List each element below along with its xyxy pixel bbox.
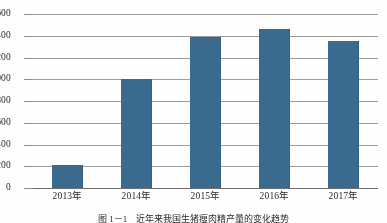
bar-group xyxy=(33,14,378,188)
y-axis-tick-label: 400 xyxy=(0,140,11,150)
y-axis-tick-label: 1000 xyxy=(0,75,11,85)
y-axis-tick-label: 800 xyxy=(0,96,11,106)
figure-caption: 图 1－1 近年来我国生猪瘦肉精产量的变化趋势 xyxy=(0,214,387,223)
y-axis-tick-label: 1600 xyxy=(0,9,11,19)
x-axis-baseline xyxy=(33,188,378,189)
y-axis-tick-label: 600 xyxy=(0,118,11,128)
y-axis-tick: 1600 xyxy=(24,14,33,15)
y-axis-tick: 0 xyxy=(24,188,33,189)
y-axis-tick-label: 0 xyxy=(6,183,11,193)
x-axis-category-label: 2015年 xyxy=(191,192,221,202)
x-axis-category-label: 2013年 xyxy=(53,192,83,202)
bar xyxy=(190,37,221,188)
x-axis-category-label: 2014年 xyxy=(122,192,152,202)
y-axis-tick-label: 200 xyxy=(0,162,11,172)
plot-area: 02004006008001000120014001600 xyxy=(33,14,378,188)
y-axis-tick-label: 1200 xyxy=(0,53,11,63)
y-axis-tick-label: 1400 xyxy=(0,31,11,41)
y-axis-tick: 200 xyxy=(24,166,33,167)
bar xyxy=(328,41,359,188)
y-axis-tick: 600 xyxy=(24,123,33,124)
y-axis-tick: 800 xyxy=(24,101,33,102)
y-axis-tick: 1200 xyxy=(24,58,33,59)
x-axis-category-label: 2017年 xyxy=(329,192,359,202)
y-axis-tick: 1400 xyxy=(24,36,33,37)
bar xyxy=(259,29,290,188)
y-axis-tick: 1000 xyxy=(24,79,33,80)
bar xyxy=(121,79,152,188)
bar xyxy=(52,165,83,188)
x-axis-category-label: 2016年 xyxy=(260,192,290,202)
y-axis-tick: 400 xyxy=(24,145,33,146)
bar-chart-figure: 02004006008001000120014001600 2013年2014年… xyxy=(0,0,387,223)
